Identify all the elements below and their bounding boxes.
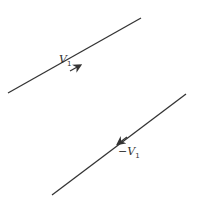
vector-v1-line [8, 18, 141, 93]
vector-v1-label: V1 [59, 53, 71, 68]
vector-neg-v1-label: −V1 [118, 145, 140, 160]
vector-neg-v1: −V1 [52, 94, 186, 195]
vector-diagram: V1 −V1 [0, 0, 220, 204]
vector-v1: V1 [8, 18, 141, 93]
